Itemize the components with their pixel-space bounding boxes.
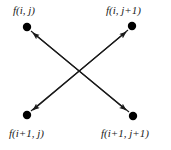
- node-dot-top-right: [128, 22, 136, 30]
- arrow-top-right-to-bottom-left: [33, 30, 128, 110]
- node-dot-bottom-left: [23, 111, 31, 119]
- node-label-top-left: f(i, j): [13, 5, 35, 16]
- node-label-bottom-right: f(i+1, j+1): [101, 128, 149, 139]
- interpolation-diagram: f(i, j) f(i, j+1) f(i+1, j) f(i+1, j+1): [0, 0, 171, 150]
- node-dot-bottom-right: [129, 112, 137, 120]
- node-dot-top-left: [23, 23, 31, 31]
- node-label-bottom-left: f(i+1, j): [9, 128, 44, 139]
- node-label-top-right: f(i, j+1): [106, 5, 141, 16]
- arrow-top-left-to-bottom-right: [31, 31, 126, 110]
